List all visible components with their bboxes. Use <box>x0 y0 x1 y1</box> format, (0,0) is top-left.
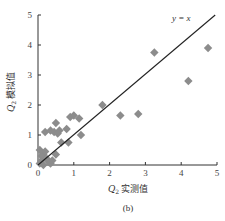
data-point-diamond <box>134 110 142 118</box>
x-axis-title: Q2实测值 <box>108 183 148 195</box>
y-axis-ticks: 012345 <box>28 10 42 170</box>
x-tick-label: 2 <box>107 168 112 178</box>
y-tick-label: 0 <box>28 160 33 170</box>
data-points <box>36 44 213 169</box>
data-point-diamond <box>116 111 124 119</box>
y-tick-label: 5 <box>28 10 33 20</box>
y-tick-label: 1 <box>28 130 33 140</box>
data-point-diamond <box>150 48 158 56</box>
reference-line-y-equals-x <box>38 15 215 165</box>
x-axis-ticks: 012345 <box>36 162 220 178</box>
figure-caption: (b) <box>123 203 134 213</box>
x-tick-label: 3 <box>143 168 148 178</box>
x-tick-label: 5 <box>215 168 220 178</box>
data-point-diamond <box>52 119 60 127</box>
y-tick-label: 2 <box>28 100 33 110</box>
data-point-diamond <box>77 131 85 139</box>
data-point-diamond <box>204 44 212 52</box>
x-tick-label: 1 <box>72 168 77 178</box>
svg-text:Q2模拟值: Q2模拟值 <box>5 72 17 112</box>
data-point-diamond <box>184 77 192 85</box>
scatter-chart: 012345 012345 y = x Q2模拟值 Q2实测值 (b) <box>0 0 225 221</box>
y-tick-label: 3 <box>28 70 33 80</box>
data-point-diamond <box>62 125 70 133</box>
y-tick-label: 4 <box>28 40 33 50</box>
reference-line-label: y = x <box>171 13 191 23</box>
x-tick-label: 4 <box>179 168 184 178</box>
y-axis-title: Q2模拟值 <box>5 72 17 112</box>
x-tick-label: 0 <box>36 168 41 178</box>
